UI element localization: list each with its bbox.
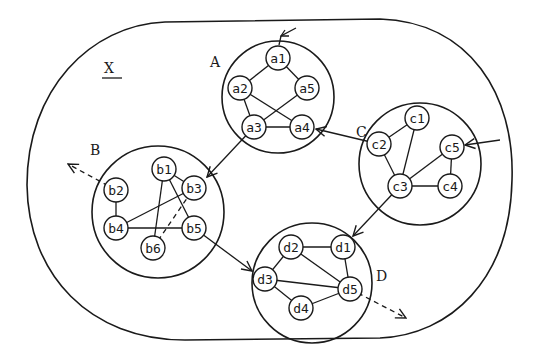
node-c5: c5	[440, 135, 464, 159]
node-d4: d4	[289, 296, 313, 320]
node-d5: d5	[338, 277, 362, 301]
node-label-a1: a1	[270, 51, 286, 66]
system-label-x: X	[104, 60, 114, 76]
node-b6: b6	[141, 236, 165, 260]
node-label-d1: d1	[335, 240, 351, 255]
node-label-d3: d3	[257, 272, 273, 287]
node-label-c1: c1	[409, 111, 425, 126]
node-label-a5: a5	[299, 81, 315, 96]
arrow-external-to-c5	[465, 140, 500, 145]
cluster-circles	[92, 41, 481, 343]
node-label-c4: c4	[442, 179, 458, 194]
node-label-b4: b4	[108, 221, 124, 236]
node-a4: a4	[290, 115, 314, 139]
nodes: a1 a2 a5 a3 a4 b1 b2 b3 b4 b5 b6 c1 c2 c…	[104, 46, 464, 320]
node-c4: c4	[438, 174, 462, 198]
node-label-c5: c5	[444, 140, 460, 155]
node-d1: d1	[331, 235, 355, 259]
node-b4: b4	[104, 216, 128, 240]
node-label-d5: d5	[342, 282, 358, 297]
node-d2: d2	[279, 235, 303, 259]
node-label-b3: b3	[186, 181, 202, 196]
node-d3: d3	[253, 267, 277, 291]
node-label-a3: a3	[246, 120, 262, 135]
node-a3: a3	[242, 115, 266, 139]
node-a2: a2	[228, 76, 252, 100]
node-c3: c3	[388, 174, 412, 198]
node-a5: a5	[295, 76, 319, 100]
node-label-a2: a2	[232, 81, 248, 96]
cluster-label-a: A	[209, 54, 221, 70]
node-label-c3: c3	[392, 179, 408, 194]
node-b1: b1	[152, 157, 176, 181]
node-label-c2: c2	[371, 137, 387, 152]
cluster-label-c: C	[356, 124, 367, 140]
node-label-b2: b2	[108, 183, 124, 198]
node-label-d4: d4	[293, 301, 309, 316]
node-b2: b2	[104, 178, 128, 202]
node-b3: b3	[182, 176, 206, 200]
node-c2: c2	[367, 132, 391, 156]
node-label-d2: d2	[283, 240, 299, 255]
node-label-b1: b1	[156, 162, 172, 177]
arrows	[68, 28, 500, 318]
system-diagram: X A B C D	[0, 0, 534, 364]
node-a1: a1	[266, 46, 290, 70]
cluster-label-b: B	[90, 142, 100, 158]
node-label-b6: b6	[145, 241, 161, 256]
cluster-label-d: D	[376, 268, 387, 284]
node-c1: c1	[405, 106, 429, 130]
node-label-b5: b5	[186, 221, 202, 236]
node-b5: b5	[182, 216, 206, 240]
node-label-a4: a4	[294, 120, 310, 135]
